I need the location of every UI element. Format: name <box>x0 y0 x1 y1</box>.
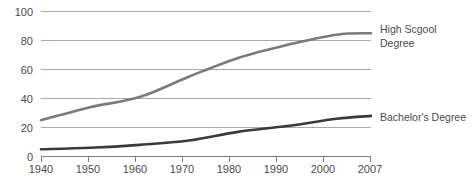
x-axis-tickmarks <box>42 157 371 162</box>
x-tick-label-1940: 1940 <box>29 163 53 175</box>
y-tick-label-40: 40 <box>21 93 33 105</box>
x-tick-label-1960: 1960 <box>123 163 147 175</box>
x-axis-tick-labels: 1940 1950 1960 1970 1980 1990 2000 2007 <box>29 163 382 175</box>
x-tick-label-1990: 1990 <box>264 163 288 175</box>
y-tick-label-0: 0 <box>27 151 33 163</box>
chart-svg: 100 80 60 40 20 0 1940 1950 1960 1970 19… <box>0 0 472 184</box>
x-tick-label-1980: 1980 <box>217 163 241 175</box>
x-tick-label-1950: 1950 <box>76 163 100 175</box>
y-tick-label-60: 60 <box>21 64 33 76</box>
line-chart: 100 80 60 40 20 0 1940 1950 1960 1970 19… <box>0 0 472 184</box>
series-label-highschool: High Scgool Degree <box>380 23 437 49</box>
series-label-highschool-line1: High Scgool <box>380 23 437 35</box>
x-tick-label-2007: 2007 <box>358 163 382 175</box>
y-axis-tick-labels: 100 80 60 40 20 0 <box>15 6 33 163</box>
x-tick-label-2000: 2000 <box>311 163 335 175</box>
series-label-bachelor: Bachelor's Degree <box>380 111 466 123</box>
series-line-bachelor <box>41 116 371 149</box>
y-tick-label-80: 80 <box>21 35 33 47</box>
y-tick-label-100: 100 <box>15 6 33 18</box>
series-label-highschool-line2: Degree <box>380 37 415 49</box>
x-tick-label-1970: 1970 <box>170 163 194 175</box>
series-line-highschool <box>41 33 371 120</box>
y-tick-label-20: 20 <box>21 122 33 134</box>
